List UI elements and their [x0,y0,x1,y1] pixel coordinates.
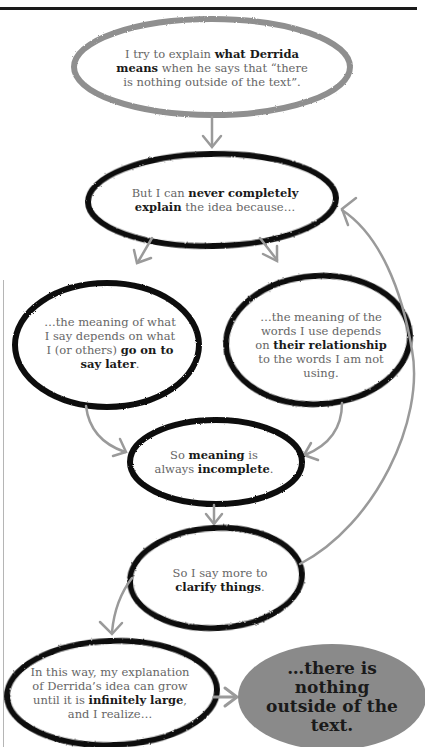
node-clarify: So I say more to clarify things. [160,560,280,600]
node-say-later: …the meaning of what I say depends on wh… [42,305,178,381]
node-start-text: I try to explain what Derrida means when… [112,47,312,89]
node-infinite-text: In this way, my explanation of Derrida’s… [30,665,190,721]
node-start: I try to explain what Derrida means when… [112,30,312,105]
arrow-start-to-never [203,117,221,147]
node-conclusion-text: …there is nothing outside of the text. [262,659,402,735]
arrow-clarify-to-infinite [100,578,132,634]
node-incomplete: So meaning is always incomplete. [154,442,274,482]
node-clarify-text: So I say more to clarify things. [160,566,280,594]
node-never-explain: But I can never completely explain the i… [125,178,305,222]
node-relationship-text: …the meaning of the words I use depends … [255,310,387,380]
node-infinite: In this way, my explanation of Derrida’s… [30,655,190,731]
node-incomplete-text: So meaning is always incomplete. [154,448,274,476]
arrow-say-later-to-incomplete [86,406,126,456]
node-conclusion: …there is nothing outside of the text. [262,665,402,729]
arrow-relationship-to-incomplete [304,403,342,460]
node-relationship: …the meaning of the words I use depends … [255,300,387,390]
node-never-explain-text: But I can never completely explain the i… [125,186,305,214]
arrow-incomplete-to-clarify [206,505,222,524]
node-say-later-text: …the meaning of what I say depends on wh… [42,315,178,371]
